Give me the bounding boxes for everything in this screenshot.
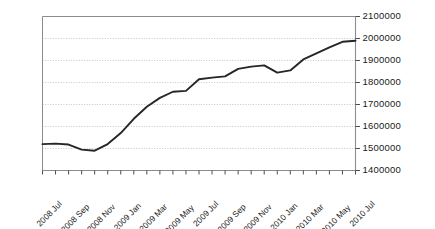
y-tick-label: 1600000 [363, 120, 401, 131]
x-axis-ticks [43, 171, 356, 175]
y-tick-label: 1500000 [363, 142, 401, 153]
line-chart: 1400000150000016000001700000180000019000… [0, 0, 435, 229]
y-tick-label: 1400000 [363, 164, 401, 175]
y-tick-label: 2100000 [363, 10, 401, 21]
series-line [43, 41, 356, 151]
y-axis-ticks [356, 17, 361, 171]
gridlines [43, 39, 356, 149]
plot-frame [43, 17, 356, 171]
y-tick-label: 1800000 [363, 76, 401, 87]
y-tick-label: 1700000 [363, 98, 401, 109]
y-tick-label: 1900000 [363, 54, 401, 65]
y-tick-label: 2000000 [363, 32, 401, 43]
data-series [43, 41, 356, 151]
